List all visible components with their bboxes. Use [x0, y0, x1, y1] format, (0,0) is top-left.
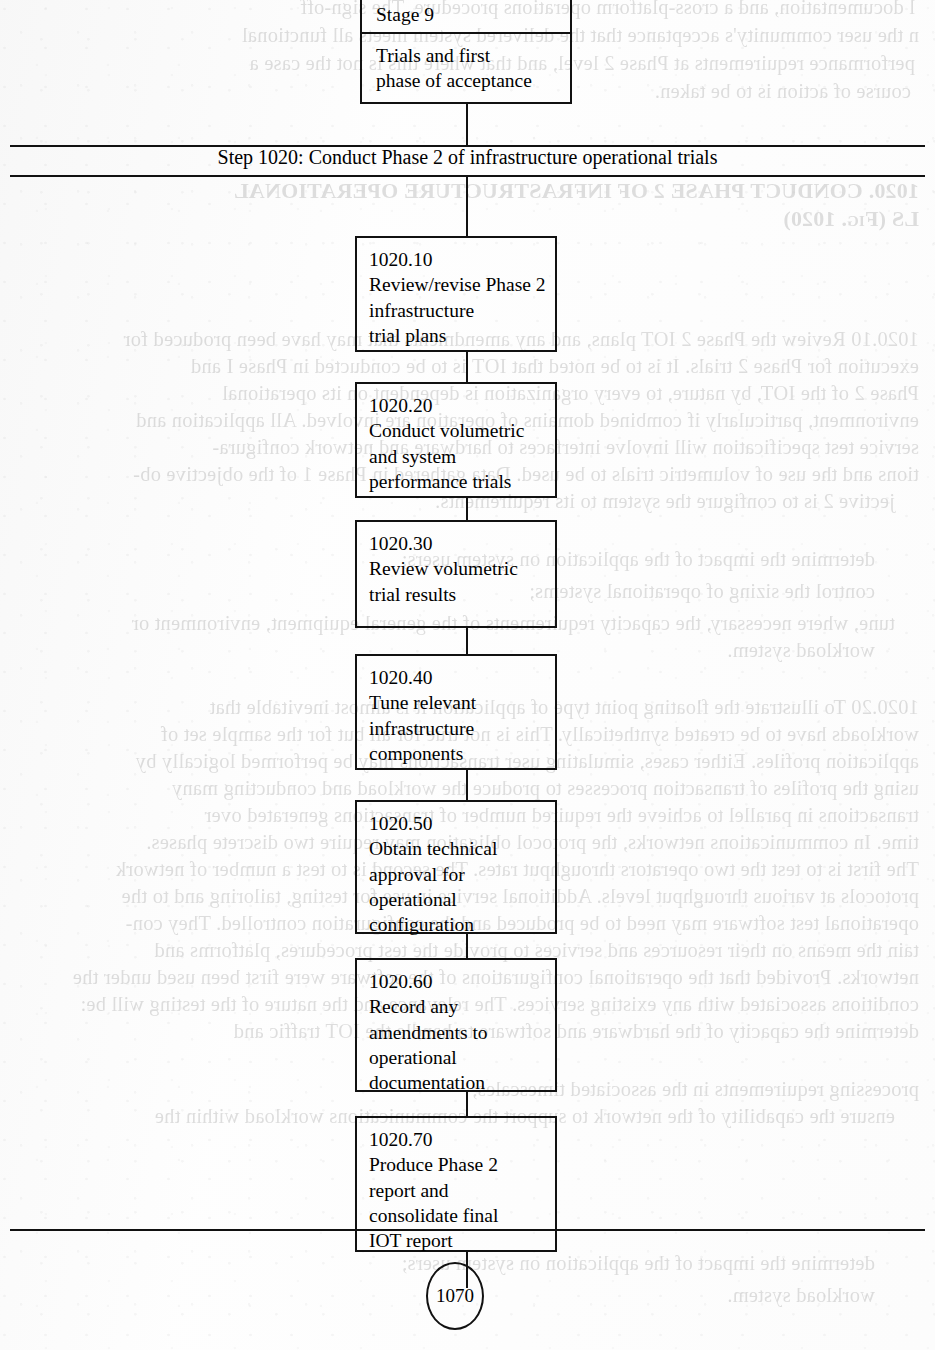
flow-node-text: 1020.50 Obtain technical approval for op… [369, 811, 549, 938]
step-banner-label: Step 1020: Conduct Phase 2 of infrastruc… [0, 146, 935, 169]
connector-banner-to-node-1 [466, 177, 468, 237]
flow-node-1020-20: 1020.20 Conduct volumetric and system pe… [355, 382, 557, 498]
show-through-line: service test specification will involve … [212, 436, 919, 459]
flow-node-1020-50: 1020.50 Obtain technical approval for op… [355, 800, 557, 934]
connector-1020-50-to-1020-60 [466, 934, 468, 958]
flow-node-text: 1020.60 Record any amendments to operati… [369, 969, 549, 1096]
page-bottom-rule [10, 1229, 925, 1231]
show-through-line: workload system. [727, 639, 875, 662]
stage-node-title-cell: Stage 9 [362, 0, 570, 34]
flow-node-1020-70: 1020.70 Produce Phase 2 report and conso… [355, 1116, 557, 1252]
flow-node-1020-30: 1020.30 Review volumetric trial results [355, 520, 557, 628]
flow-node-1020-40: 1020.40 Tune relevant infrastructure com… [355, 654, 557, 770]
connector-1020-40-to-1020-50 [466, 770, 468, 800]
show-through-line: execution for Phase 2 trials. It is to b… [191, 355, 919, 378]
show-through-line: 1020. CONDUCT PHASE 2 OF INFRASTRUCTURE … [234, 178, 919, 204]
flow-node-text: 1020.10 Review/revise Phase 2 infrastruc… [369, 247, 549, 348]
show-through-line: n the user community's acceptance that t… [242, 24, 919, 47]
flow-node-text: 1020.70 Produce Phase 2 report and conso… [369, 1127, 549, 1254]
terminator-node: 1070 [426, 1262, 484, 1330]
show-through-line: using the profiles of transaction proces… [172, 777, 919, 800]
show-through-line: LS (Fig. 1020) [783, 206, 919, 232]
connector-1020-60-to-1020-70 [466, 1092, 468, 1116]
terminator-label: 1070 [428, 1285, 482, 1307]
show-through-line: course of action is to be taken. [655, 80, 911, 103]
show-through-line: performance requirements at Phase 2 leve… [250, 52, 916, 75]
flow-node-text: 1020.30 Review volumetric trial results [369, 531, 549, 607]
flow-node-1020-10: 1020.10 Review/revise Phase 2 infrastruc… [355, 236, 557, 352]
stage-node: Stage 9 Trials and first phase of accept… [360, 0, 572, 104]
connector-1020-20-to-1020-30 [466, 498, 468, 520]
show-through-line: transactions in parallel to achieve the … [205, 804, 919, 827]
flow-node-text: 1020.20 Conduct volumetric and system pe… [369, 393, 549, 494]
connector-stage-to-banner [466, 104, 468, 146]
scanned-page: l documentation, and a cross-platform op… [0, 0, 935, 1350]
flow-node-1020-60: 1020.60 Record any amendments to operati… [355, 958, 557, 1092]
connector-1020-30-to-1020-40 [466, 628, 468, 654]
show-through-line: Phase 2 of the IOT, by nature, to every … [222, 382, 919, 405]
connector-1020-10-to-1020-20 [466, 352, 468, 382]
stage-node-description: Trials and first phase of acceptance [376, 43, 564, 94]
show-through-line: control the sizing of operational system… [529, 580, 875, 603]
show-through-line: 1020.20 To illustrate the floating point… [210, 696, 919, 719]
stage-node-title: Stage 9 [376, 2, 434, 27]
show-through-line: determine the capacity of the hardware a… [234, 1020, 919, 1043]
show-through-line: workload system. [727, 1284, 875, 1307]
flow-node-text: 1020.40 Tune relevant infrastructure com… [369, 665, 549, 766]
